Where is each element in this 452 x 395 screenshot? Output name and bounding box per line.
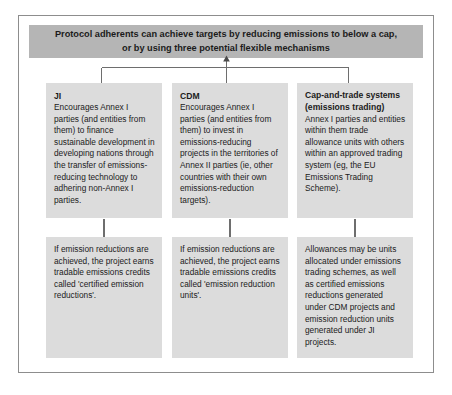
flowchart-figure: Protocol adherents can achieve targets b… <box>0 0 452 395</box>
banner-statement: Protocol adherents can achieve targets b… <box>29 25 423 58</box>
box-ji-outcome: If emission reductions are achieved, the… <box>46 237 162 358</box>
box-cap-and-trade-outcome-body: Allowances may be units allocated under … <box>305 244 406 348</box>
box-ji-outcome-body: If emission reductions are achieved, the… <box>54 244 155 302</box>
banner-text: Protocol adherents can achieve targets b… <box>37 28 415 55</box>
box-ji-body: Encourages Annex I parties (and entities… <box>54 102 155 206</box>
box-cap-and-trade-heading: Cap-and-trade systems (emissions trading… <box>305 90 406 114</box>
box-cdm-heading: CDM <box>180 90 281 102</box>
box-ji-heading: JI <box>54 90 155 102</box>
banner-line-1: Protocol adherents can achieve targets b… <box>37 28 415 42</box>
banner-line-2: or by using three potential flexible mec… <box>37 42 415 56</box>
box-cdm-outcome: If emission reductions are achieved, the… <box>172 237 288 358</box>
box-cap-and-trade-outcome: Allowances may be units allocated under … <box>297 237 413 358</box>
box-ji-description: JI Encourages Annex I parties (and entit… <box>46 83 162 218</box>
box-cap-and-trade-body: Annex I parties and entities within them… <box>305 114 406 195</box>
box-cdm-description: CDM Encourages Annex I parties (and enti… <box>172 83 288 218</box>
box-cdm-body: Encourages Annex I parties (and entities… <box>180 102 281 206</box>
box-cdm-outcome-body: If emission reductions are achieved, the… <box>180 244 281 302</box>
box-cap-and-trade-description: Cap-and-trade systems (emissions trading… <box>297 83 413 218</box>
